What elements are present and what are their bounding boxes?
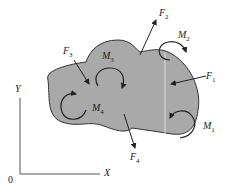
label-m1: M1	[203, 121, 215, 134]
label-m2: M2	[178, 30, 190, 43]
label-f1: F1	[206, 71, 216, 84]
label-f3: F3	[63, 46, 73, 59]
label-f2: F2	[159, 8, 169, 21]
free-body-diagram: F1 F2 F3 F4 M1 M2 M3 M4 Y X 0	[0, 0, 230, 192]
origin-label: 0	[8, 175, 13, 185]
diagram-graphics	[0, 0, 230, 192]
x-axis-label: X	[104, 168, 110, 178]
y-axis-label: Y	[15, 84, 21, 94]
label-m3: M3	[102, 51, 114, 64]
label-m4: M4	[92, 103, 104, 116]
label-f4: F4	[130, 152, 140, 165]
